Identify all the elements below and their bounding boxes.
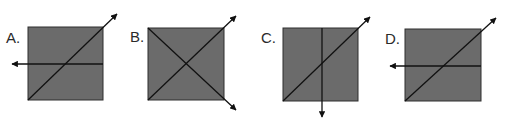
option-a[interactable]: A. (0, 0, 125, 135)
option-a-figure (0, 0, 125, 135)
option-d[interactable]: D. (375, 0, 508, 135)
option-c[interactable]: C. (250, 0, 375, 135)
option-b[interactable]: B. (125, 0, 250, 135)
option-c-figure (250, 0, 375, 135)
option-b-figure (125, 0, 250, 135)
option-d-figure (375, 0, 508, 135)
